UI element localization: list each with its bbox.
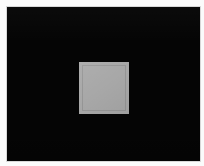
gray-square [79,62,129,114]
image-canvas: Gray square on black field A near-white … [0,0,204,166]
square-inner-frame [82,65,126,111]
black-panel [7,7,200,161]
